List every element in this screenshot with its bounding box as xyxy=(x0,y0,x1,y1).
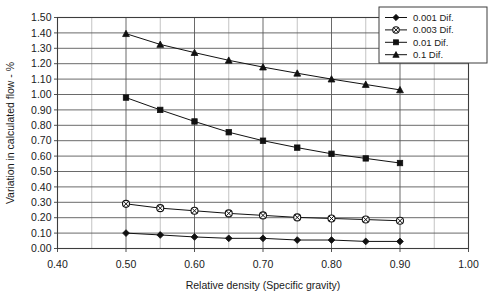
marker-circle-cross xyxy=(123,200,130,207)
x-axis-title: Relative density (Specific gravity) xyxy=(186,279,341,291)
marker-diamond xyxy=(191,234,198,241)
marker-diamond xyxy=(260,235,267,242)
marker-square xyxy=(192,119,197,124)
chart-container: 0.000.100.200.300.400.500.600.700.800.90… xyxy=(0,0,496,303)
x-tick-label: 0.80 xyxy=(321,258,342,270)
marker-square xyxy=(260,138,265,143)
y-axis-title: Variation in calculated flow - % xyxy=(4,62,16,204)
legend-label: 0.1 Dif. xyxy=(413,49,443,60)
y-tick-label: 1.30 xyxy=(31,42,52,54)
y-tick-label: 0.90 xyxy=(31,104,52,116)
y-tick-label: 0.00 xyxy=(31,242,52,254)
marker-square xyxy=(363,156,368,161)
marker-triangle xyxy=(123,30,130,36)
x-tick-label: 0.60 xyxy=(184,258,205,270)
marker-square xyxy=(329,151,334,156)
marker-diamond xyxy=(225,235,232,242)
marker-square xyxy=(158,107,163,112)
y-tick-label: 0.50 xyxy=(31,165,52,177)
marker-diamond xyxy=(362,238,369,245)
marker-square xyxy=(226,130,231,135)
y-tick-label: 1.00 xyxy=(31,88,52,100)
x-tick-label: 1.00 xyxy=(458,258,479,270)
legend-label: 0.01 Dif. xyxy=(413,37,448,48)
marker-diamond xyxy=(328,237,335,244)
x-tick-label: 0.70 xyxy=(253,258,274,270)
marker-diamond xyxy=(123,230,130,237)
y-tick-label: 0.80 xyxy=(31,119,52,131)
y-tick-label: 1.40 xyxy=(31,27,52,39)
chart-plot: 0.000.100.200.300.400.500.600.700.800.90… xyxy=(0,0,496,303)
marker-circle-cross xyxy=(393,27,399,33)
y-tick-label: 0.70 xyxy=(31,134,52,146)
marker-circle-cross xyxy=(191,207,198,214)
x-tick-label: 0.50 xyxy=(116,258,137,270)
marker-diamond xyxy=(294,237,301,244)
marker-circle-cross xyxy=(397,217,404,224)
y-axis-tick-labels: 0.000.100.200.300.400.500.600.700.800.90… xyxy=(31,11,52,254)
marker-circle-cross xyxy=(362,216,369,223)
legend-label: 0.003 Dif. xyxy=(413,24,454,35)
legend-label: 0.001 Dif. xyxy=(413,12,454,23)
chart-legend: 0.001 Dif.0.003 Dif.0.01 Dif.0.1 Dif. xyxy=(379,7,487,63)
x-tick-label: 0.90 xyxy=(390,258,411,270)
y-tick-label: 1.20 xyxy=(31,57,52,69)
marker-circle-cross xyxy=(260,212,267,219)
x-axis-tick-labels: 0.400.500.600.700.800.901.00 xyxy=(47,258,479,270)
marker-square xyxy=(397,160,402,165)
marker-circle-cross xyxy=(157,205,164,212)
marker-circle-cross xyxy=(328,215,335,222)
y-tick-label: 0.10 xyxy=(31,227,52,239)
marker-diamond xyxy=(397,238,404,245)
marker-diamond xyxy=(157,232,164,239)
marker-circle-cross xyxy=(225,210,232,217)
y-tick-label: 0.60 xyxy=(31,150,52,162)
marker-square xyxy=(394,40,399,45)
y-tick-label: 0.20 xyxy=(31,211,52,223)
marker-circle-cross xyxy=(294,214,301,221)
y-tick-label: 0.40 xyxy=(31,181,52,193)
x-tick-label: 0.40 xyxy=(47,258,68,270)
y-tick-label: 0.30 xyxy=(31,196,52,208)
marker-square xyxy=(295,145,300,150)
marker-square xyxy=(123,95,128,100)
y-tick-label: 1.10 xyxy=(31,73,52,85)
y-tick-label: 1.50 xyxy=(31,11,52,23)
